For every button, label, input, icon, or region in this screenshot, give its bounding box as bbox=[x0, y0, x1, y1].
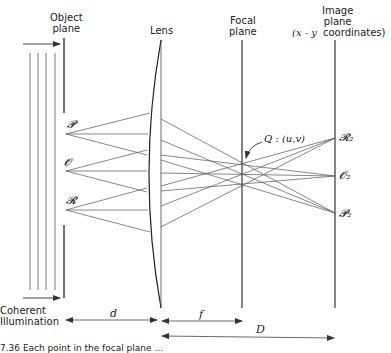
image-plane-coord-xy: (x - y bbox=[292, 27, 317, 38]
dimension-D bbox=[162, 336, 334, 338]
dimension-f-label: f bbox=[199, 308, 203, 321]
lens bbox=[149, 40, 161, 308]
illumination-lines bbox=[30, 53, 55, 290]
illumination-label: Coherent Illumination bbox=[0, 305, 59, 327]
dimension-d-label: d bbox=[110, 307, 117, 320]
image-plane-label: Image plane bbox=[322, 5, 353, 27]
image-point-p2: 𝓟₂ bbox=[339, 207, 351, 220]
rays-image-side bbox=[161, 119, 335, 227]
object-point-p: 𝓟 bbox=[67, 118, 75, 131]
rays-object-side bbox=[66, 113, 150, 232]
dimension-D-label: D bbox=[256, 323, 265, 336]
figure-caption: 7.36 Each point in the focal plane ... bbox=[0, 343, 163, 353]
focal-plane-label: Focal plane bbox=[229, 15, 257, 37]
object-point-r: 𝓡 bbox=[66, 194, 76, 207]
image-plane-coord-label: coordinates) bbox=[323, 27, 385, 38]
object-point-o: 𝓞 bbox=[64, 156, 71, 169]
object-plane-label: Object plane bbox=[50, 12, 83, 34]
image-point-o2: 𝓞₂ bbox=[339, 169, 350, 182]
image-point-r2: 𝓡₂ bbox=[339, 131, 353, 144]
q-pointer-arrow bbox=[246, 142, 262, 158]
focal-point-q-label: Q : (u,v) bbox=[264, 133, 305, 144]
lens-label: Lens bbox=[150, 25, 173, 36]
